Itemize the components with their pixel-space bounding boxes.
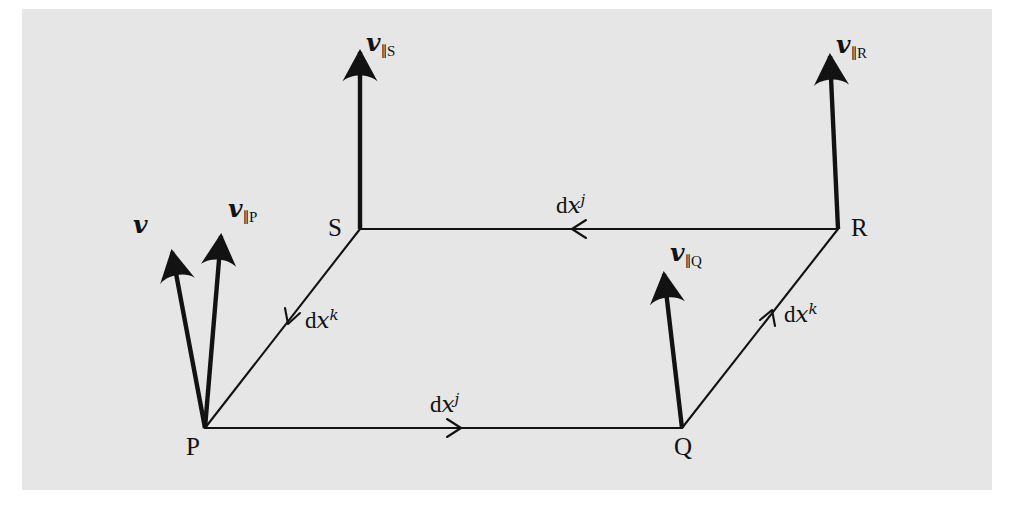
dx-x-glyph: x: [442, 391, 455, 417]
vector-label-v-parallel-Q: v∥Q: [670, 240, 702, 269]
dx-x-glyph: x: [568, 192, 581, 218]
dx-d-glyph: d: [784, 302, 796, 327]
vector-symbol-v: v: [836, 30, 851, 59]
edge-label-dxk-right: dxk: [784, 302, 818, 326]
vertex-label-P: P: [186, 434, 200, 459]
dx-x-glyph: x: [317, 307, 330, 333]
vector-label-v-at-P: v: [133, 212, 148, 241]
vector-v-parallel-P: [205, 236, 221, 428]
dx-d-glyph: d: [305, 308, 317, 333]
vector-v-parallel-Q: [664, 274, 682, 428]
vector-symbol-v: v: [228, 194, 243, 223]
dx-index-glyph: k: [808, 300, 817, 318]
vector-label-v-parallel-R: v∥R: [836, 32, 867, 61]
vector-label-v-parallel-P: v∥P: [228, 196, 258, 225]
dx-x-glyph: x: [796, 301, 809, 327]
vector-subscript-point: R: [857, 45, 867, 61]
edge-label-dxj-bottom: dxj: [430, 392, 459, 416]
vector-subscript-point: Q: [691, 253, 702, 269]
vertex-label-Q: Q: [674, 434, 692, 459]
vector-v-at-P: [172, 252, 205, 428]
edge-label-dxk-left: dxk: [305, 308, 339, 332]
vector-symbol-v: v: [670, 238, 685, 267]
vertex-label-R: R: [851, 215, 868, 240]
loop-edges: [205, 229, 838, 428]
diagram-canvas: [0, 0, 1011, 505]
vector-arrows: [172, 52, 838, 428]
vector-v-parallel-R: [830, 56, 838, 229]
dx-index-glyph: k: [329, 306, 338, 324]
dx-index-glyph: j: [580, 191, 585, 209]
figure-root: P Q R S dxj dxj dxk dxk v v∥P v∥Q v∥S v∥…: [0, 0, 1011, 505]
vector-symbol-v: v: [366, 28, 381, 57]
vector-subscript-point: P: [249, 209, 258, 225]
vector-subscript-point: S: [387, 43, 396, 59]
edge-label-dxj-top: dxj: [556, 193, 585, 217]
dx-index-glyph: j: [454, 390, 459, 408]
edge-Q-R: [682, 229, 838, 428]
vector-label-v-parallel-S: v∥S: [366, 30, 396, 59]
vector-symbol-v: v: [133, 210, 148, 239]
vertex-label-S: S: [328, 215, 342, 240]
dx-d-glyph: d: [556, 193, 568, 218]
dx-d-glyph: d: [430, 392, 442, 417]
